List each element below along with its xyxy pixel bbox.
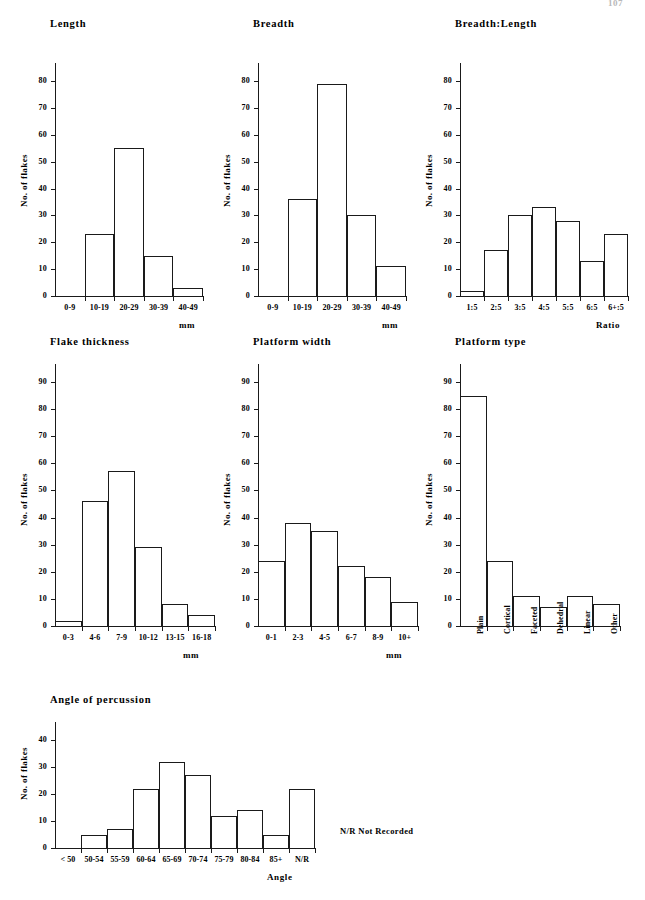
y-tick-label: 80 [428, 404, 452, 413]
y-tick [51, 409, 55, 410]
y-tick [456, 108, 460, 109]
y-tick [456, 135, 460, 136]
chart-title-length: Length [50, 18, 86, 29]
y-tick [254, 135, 258, 136]
y-tick-label: 10 [23, 816, 47, 825]
x-tick-label: 10+ [391, 633, 418, 642]
x-tick-label: 13-15 [162, 633, 189, 642]
y-tick-label: 20 [226, 237, 250, 246]
x-tick-label: 75-79 [211, 855, 237, 864]
y-tick-label: 70 [226, 103, 250, 112]
y-tick-label: 70 [23, 431, 47, 440]
y-tick-label: 40 [23, 735, 47, 744]
bar [604, 234, 628, 296]
y-tick-label: 90 [226, 377, 250, 386]
bar [376, 266, 406, 296]
y-tick [51, 463, 55, 464]
x-tick-label: 20-29 [317, 303, 347, 312]
x-tick [185, 848, 186, 853]
y-axis-label-breadth: No. of flakes [222, 155, 232, 208]
x-tick-label: 10-12 [135, 633, 162, 642]
y-tick [51, 242, 55, 243]
x-tick-label: 20-29 [114, 303, 144, 312]
x-tick [133, 848, 134, 853]
x-tick [556, 296, 557, 301]
x-tick [376, 296, 377, 301]
chart-title-flake-thickness: Flake thickness [50, 336, 130, 347]
y-tick [456, 189, 460, 190]
y-tick [254, 242, 258, 243]
y-tick-label: 0 [23, 291, 47, 300]
x-tick [237, 848, 238, 853]
bar [288, 199, 318, 296]
y-tick-label: 60 [226, 130, 250, 139]
y-tick [456, 296, 460, 297]
y-axis-label-platform-width: No. of flakes [222, 473, 232, 526]
x-tick-label: 7-9 [108, 633, 135, 642]
bar [135, 547, 162, 626]
chart-title-platform-width: Platform width [253, 336, 331, 347]
y-tick [51, 436, 55, 437]
y-tick-label: 30 [428, 540, 452, 549]
x-tick-label: 1:5 [460, 303, 484, 312]
bar [556, 221, 580, 296]
y-tick [254, 490, 258, 491]
plot-area-platform-width: 01020304050607080900-12-34-56-78-910+ [258, 364, 418, 626]
y-tick [51, 490, 55, 491]
y-tick-label: 20 [428, 237, 452, 246]
y-tick [51, 545, 55, 546]
bar [81, 835, 107, 849]
bar [508, 215, 532, 296]
x-tick [513, 626, 514, 631]
bar [460, 396, 487, 626]
y-tick-label: 20 [226, 567, 250, 576]
y-tick [254, 409, 258, 410]
y-tick [254, 436, 258, 437]
bar [258, 561, 285, 626]
y-tick [51, 108, 55, 109]
x-tick [108, 626, 109, 631]
x-tick [107, 848, 108, 853]
x-tick [484, 296, 485, 301]
x-axis-label-flake-thickness: mm [183, 650, 199, 660]
y-axis-label-flake-thickness: No. of flakes [19, 473, 29, 526]
x-tick [263, 848, 264, 853]
x-tick [285, 626, 286, 631]
y-axis-line [55, 722, 56, 848]
x-tick [391, 626, 392, 631]
y-tick [254, 215, 258, 216]
x-tick [81, 848, 82, 853]
bar [285, 523, 312, 626]
bar [365, 577, 392, 626]
y-tick [254, 269, 258, 270]
x-tick-label: < 50 [55, 855, 81, 864]
bar [159, 762, 185, 848]
y-tick-label: 70 [23, 103, 47, 112]
y-tick [51, 767, 55, 768]
x-axis-label-breadth: mm [382, 320, 398, 330]
y-tick-label: 30 [428, 210, 452, 219]
x-tick-label: 10-19 [85, 303, 115, 312]
plot-area-breadth-length: 010203040506070801:52:53:54:55:56:56+:5 [460, 63, 628, 296]
x-tick-label: 5:5 [556, 303, 580, 312]
y-tick [456, 269, 460, 270]
y-tick [51, 794, 55, 795]
y-tick-label: 30 [226, 540, 250, 549]
x-axis-line [460, 296, 628, 297]
x-tick [188, 626, 189, 631]
x-tick [173, 296, 174, 301]
x-tick-label: 30-39 [347, 303, 377, 312]
y-tick-label: 10 [23, 264, 47, 273]
bar [460, 291, 484, 296]
plot-area-flake-thickness: 01020304050607080900-34-67-910-1213-1516… [55, 364, 215, 626]
bar [107, 829, 133, 848]
y-tick-label: 70 [226, 431, 250, 440]
x-axis-line [258, 296, 406, 297]
y-tick-label: 0 [428, 621, 452, 630]
y-axis-label-length: No. of flakes [19, 155, 29, 208]
y-axis-label-platform-type: No. of flakes [424, 473, 434, 526]
y-tick [254, 189, 258, 190]
bar [82, 501, 109, 626]
bar [237, 810, 263, 848]
x-tick-label: 0-9 [258, 303, 288, 312]
